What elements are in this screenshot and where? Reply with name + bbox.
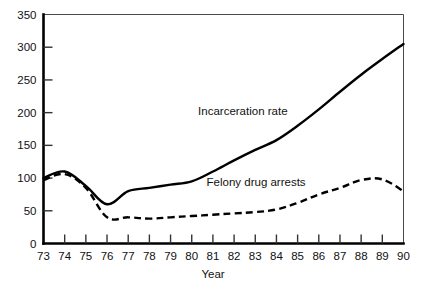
x-tick-label: 75 bbox=[79, 250, 92, 262]
y-tick-label: 0 bbox=[30, 238, 36, 250]
y-tick-label: 250 bbox=[17, 74, 36, 86]
x-axis-ticks bbox=[65, 235, 383, 244]
x-tick-label: 79 bbox=[164, 250, 177, 262]
series-annotation: Incarceration rate bbox=[198, 105, 288, 117]
plot-frame bbox=[44, 15, 404, 244]
y-tick-label: 50 bbox=[24, 205, 37, 217]
x-tick-label: 84 bbox=[270, 250, 283, 262]
x-tick-label: 81 bbox=[207, 250, 220, 262]
y-tick-label: 350 bbox=[17, 9, 36, 21]
line-chart: 050100150200250300350 737475767778798081… bbox=[0, 0, 424, 292]
y-tick-label: 100 bbox=[17, 172, 36, 184]
x-tick-label: 80 bbox=[185, 250, 198, 262]
plot-border bbox=[44, 15, 404, 244]
x-axis-title: Year bbox=[201, 268, 224, 280]
y-tick-label: 300 bbox=[17, 41, 36, 53]
x-tick-label: 87 bbox=[334, 250, 347, 262]
x-tick-label: 90 bbox=[397, 250, 410, 262]
x-tick-label: 73 bbox=[37, 250, 50, 262]
series-annotation: Felony drug arrests bbox=[207, 176, 306, 188]
x-axis-tick-labels: 737475767778798081828384858687888990 bbox=[37, 250, 410, 262]
y-axis-tick-labels: 050100150200250300350 bbox=[17, 9, 36, 250]
x-tick-label: 82 bbox=[228, 250, 241, 262]
x-tick-label: 88 bbox=[355, 250, 368, 262]
x-tick-label: 85 bbox=[291, 250, 304, 262]
y-tick-label: 200 bbox=[17, 107, 36, 119]
x-tick-label: 76 bbox=[101, 250, 114, 262]
x-tick-label: 86 bbox=[312, 250, 325, 262]
x-tick-label: 77 bbox=[122, 250, 135, 262]
series-annotations: Incarceration rateFelony drug arrests bbox=[198, 105, 306, 188]
x-tick-label: 89 bbox=[376, 250, 389, 262]
x-tick-label: 83 bbox=[249, 250, 262, 262]
chart-container: 050100150200250300350 737475767778798081… bbox=[0, 0, 424, 292]
x-tick-label: 78 bbox=[143, 250, 156, 262]
data-series-group bbox=[44, 44, 404, 220]
y-tick-label: 150 bbox=[17, 139, 36, 151]
y-axis-ticks bbox=[44, 47, 53, 211]
x-tick-label: 74 bbox=[58, 250, 71, 262]
